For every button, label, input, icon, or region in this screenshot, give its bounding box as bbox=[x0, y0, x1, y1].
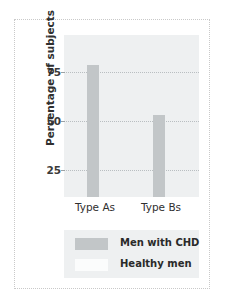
legend-swatch-healthy-men bbox=[75, 259, 108, 271]
legend: Men with CHD Healthy men bbox=[64, 230, 199, 278]
figure-frame: 75 50 25 Percentage of subjects Type As … bbox=[14, 19, 210, 289]
bar-chart: 75 50 25 Percentage of subjects Type As … bbox=[15, 20, 211, 290]
x-axis-labels: Type As Type Bs bbox=[64, 201, 199, 219]
legend-label-men-with-chd: Men with CHD bbox=[120, 237, 199, 248]
ytick-mark-50 bbox=[61, 121, 65, 122]
y-axis-title: Percentage of subjects bbox=[44, 3, 56, 153]
legend-row-healthy-men: Healthy men bbox=[64, 255, 199, 275]
plot-area bbox=[64, 35, 199, 197]
ytick-mark-75 bbox=[61, 72, 65, 73]
legend-row-men-with-chd: Men with CHD bbox=[64, 234, 199, 254]
legend-swatch-men-with-chd bbox=[75, 238, 108, 250]
gridline-50 bbox=[64, 121, 199, 122]
gridline-25 bbox=[64, 170, 199, 171]
xlabel-type-bs: Type Bs bbox=[130, 201, 192, 213]
legend-label-healthy-men: Healthy men bbox=[120, 258, 192, 269]
gridline-75 bbox=[64, 72, 199, 73]
ytick-label-25: 25 bbox=[37, 165, 61, 176]
xlabel-type-as: Type As bbox=[64, 201, 126, 213]
bar-type-bs-men-with-chd bbox=[153, 115, 165, 197]
ytick-mark-25 bbox=[61, 170, 65, 171]
bar-type-as-men-with-chd bbox=[87, 65, 99, 197]
